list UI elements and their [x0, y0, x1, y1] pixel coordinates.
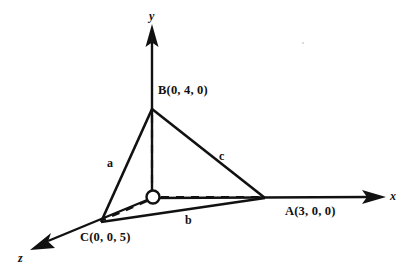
vertex-label-C: C(0, 0, 5) — [80, 231, 131, 244]
z-axis-label: z — [18, 252, 23, 264]
triangle-abc — [101, 109, 265, 222]
side-label-b: b — [185, 214, 192, 226]
side-label-c: c — [219, 150, 225, 162]
x-axis — [152, 190, 386, 204]
scan-artifact-speck — [302, 42, 304, 44]
edge-c-BA — [152, 109, 265, 198]
coordinate-system-diagram — [0, 0, 412, 278]
origin-marker-circle — [147, 191, 160, 204]
side-label-a: a — [107, 157, 113, 169]
y-axis-label: y — [149, 10, 155, 22]
z-axis-arrowhead — [30, 233, 55, 250]
diagram-canvas: y x z B(0, 4, 0) A(3, 0, 0) C(0, 0, 5) a… — [0, 0, 412, 278]
vertex-label-B: B(0, 4, 0) — [158, 84, 208, 97]
x-axis-label: x — [390, 190, 396, 202]
vertex-label-A: A(3, 0, 0) — [285, 205, 336, 218]
